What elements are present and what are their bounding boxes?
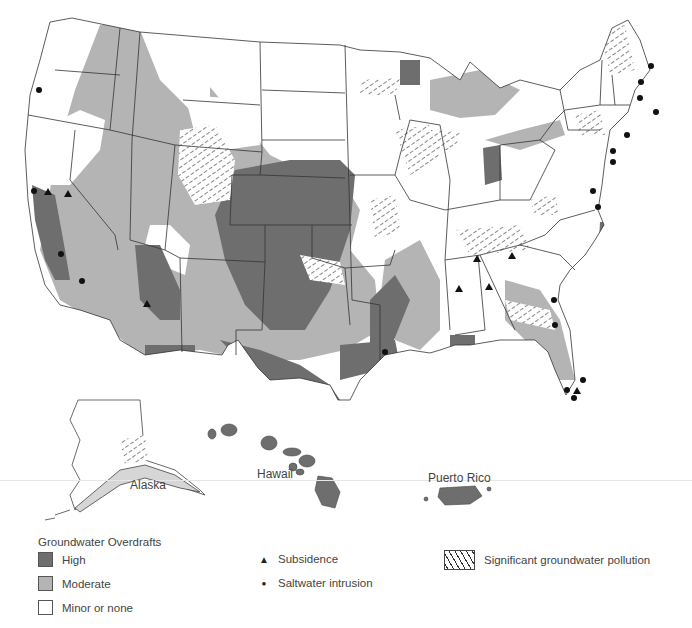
label-puerto-rico: Puerto Rico [428, 471, 491, 485]
groundwater-map [0, 0, 692, 628]
alaska [45, 400, 205, 520]
high-overdraft-gulf [340, 340, 400, 380]
legend-item-high: High [38, 552, 86, 567]
legend-label-minor: Minor or none [62, 602, 133, 614]
pollution-hatch-swatch [444, 550, 475, 570]
triangle-icon: ▲ [259, 554, 269, 565]
legend-item-moderate: Moderate [38, 576, 111, 591]
swatch-moderate [38, 576, 53, 591]
hawaii [208, 424, 340, 508]
swatch-high [38, 552, 53, 567]
swatch-minor [38, 600, 53, 615]
legend-label-moderate: Moderate [62, 578, 111, 590]
label-alaska: Alaska [130, 478, 166, 492]
high-overdraft-wisconsin [400, 60, 420, 85]
legend-label-subsidence: Subsidence [278, 553, 338, 565]
horizontal-rule [0, 480, 692, 481]
puerto-rico [424, 486, 491, 505]
high-overdraft-indiana [483, 145, 502, 185]
legend-label-saltwater: Saltwater intrusion [278, 577, 373, 589]
contiguous-us [0, 0, 692, 420]
legend-label-high: High [62, 554, 86, 566]
legend-label-pollution: Significant groundwater pollution [484, 554, 650, 566]
legend-item-subsidence: ▲ Subsidence [259, 553, 338, 565]
label-hawaii: Hawaii [257, 467, 293, 481]
high-overdraft-north-carolina [598, 222, 612, 262]
high-overdraft-arizona-south [145, 345, 195, 365]
dot-icon: ● [259, 579, 269, 588]
legend-item-minor: Minor or none [38, 600, 133, 615]
legend-item-saltwater: ● Saltwater intrusion [259, 577, 373, 589]
legend-item-pollution: Significant groundwater pollution [444, 550, 650, 570]
legend-title-overdrafts: Groundwater Overdrafts [38, 536, 161, 548]
